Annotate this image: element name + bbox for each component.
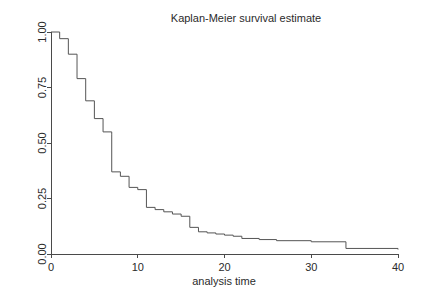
x-tick-label: 10 — [132, 261, 144, 273]
y-tick-label: 0.25 — [36, 188, 48, 209]
y-tick-label: 0.50 — [36, 132, 48, 153]
y-tick-label: 1.00 — [36, 21, 48, 42]
kaplan-meier-chart: Kaplan-Meier survival estimate 0.000.250… — [0, 0, 423, 299]
x-tick-label: 30 — [305, 261, 317, 273]
y-tick-label: 0.75 — [36, 77, 48, 98]
x-tick-label: 40 — [392, 261, 404, 273]
x-axis-title: analysis time — [192, 275, 256, 287]
x-tick-label: 0 — [48, 261, 54, 273]
y-tick-label: 0.00 — [36, 243, 48, 264]
chart-title: Kaplan-Meier survival estimate — [171, 12, 321, 24]
plot-canvas: Kaplan-Meier survival estimate 0.000.250… — [0, 0, 423, 299]
x-tick-label: 20 — [218, 261, 230, 273]
